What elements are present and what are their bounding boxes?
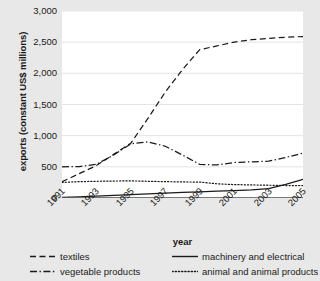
x-axis-title: year [62,236,303,247]
chart-figure: exports (constant US$ millions) 05001,00… [0,0,320,281]
x-tick-label: 1997 [148,186,170,208]
chart-legend: textilesmachinery and electricalvegetabl… [30,249,315,279]
legend-item[interactable]: animal and animal products [172,266,315,277]
x-tick-label: 1993 [79,186,101,208]
x-tick-label: 1999 [183,186,205,208]
legend-item-label: animal and animal products [202,266,318,277]
legend-item-label: machinery and electrical [202,251,304,262]
legend-item-label: vegetable products [60,266,140,277]
x-tick-label: 1991 [45,186,67,208]
legend-line-sample-icon [172,267,198,276]
legend-line-sample-icon [30,267,56,276]
x-tick-label: 2005 [286,186,308,208]
legend-item[interactable]: textiles [30,251,172,262]
legend-line-sample-icon [30,252,56,261]
x-tick-label: 2003 [252,186,274,208]
legend-item-label: textiles [60,251,90,262]
x-tick-label: 2001 [217,186,239,208]
legend-line-sample-icon [172,252,198,261]
legend-item[interactable]: vegetable products [30,266,172,277]
x-tick-label: 1995 [114,186,136,208]
legend-item[interactable]: machinery and electrical [172,251,315,262]
